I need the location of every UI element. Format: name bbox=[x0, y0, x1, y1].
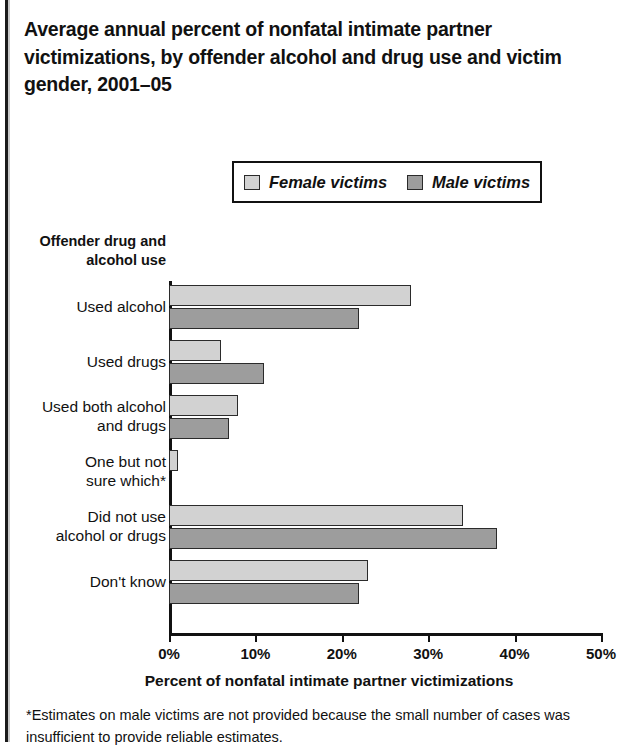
page-title: Average annual percent of nonfatal intim… bbox=[24, 16, 584, 99]
bar-female bbox=[169, 285, 411, 306]
category-label: Used drugs bbox=[6, 352, 166, 371]
legend-label-male: Male victims bbox=[432, 173, 530, 192]
x-axis-line bbox=[169, 633, 603, 636]
x-tick-mark bbox=[428, 633, 430, 642]
legend-item-female: Female victims bbox=[244, 173, 387, 192]
x-tick-mark bbox=[601, 633, 603, 642]
bar-male bbox=[169, 528, 497, 549]
bar-male bbox=[169, 308, 359, 329]
bar-female bbox=[169, 340, 221, 361]
bar-male bbox=[169, 418, 229, 439]
x-tick-mark bbox=[342, 633, 344, 642]
x-tick-mark bbox=[515, 633, 517, 642]
bar-female bbox=[169, 560, 368, 581]
bar-male bbox=[169, 583, 359, 604]
x-tick-label: 30% bbox=[413, 645, 443, 662]
x-tick-mark bbox=[169, 633, 171, 642]
chart-legend: Female victims Male victims bbox=[232, 161, 542, 203]
footnote: *Estimates on male victims are not provi… bbox=[26, 705, 606, 749]
bar-female bbox=[169, 505, 463, 526]
x-tick-label: 50% bbox=[586, 645, 616, 662]
category-label: Did not usealcohol or drugs bbox=[6, 507, 166, 545]
category-label: One but notsure which* bbox=[6, 452, 166, 490]
category-label: Used both alcoholand drugs bbox=[6, 397, 166, 435]
bar-female bbox=[169, 450, 178, 471]
legend-label-female: Female victims bbox=[269, 173, 387, 192]
bar-male bbox=[169, 363, 264, 384]
x-tick-mark bbox=[255, 633, 257, 642]
x-tick-label: 10% bbox=[240, 645, 270, 662]
legend-item-male: Male victims bbox=[407, 173, 530, 192]
legend-swatch-female-icon bbox=[244, 175, 260, 190]
x-axis-title: Percent of nonfatal intimate partner vic… bbox=[0, 672, 636, 690]
category-label: Used alcohol bbox=[6, 297, 166, 316]
y-axis-header: Offender drug and alcohol use bbox=[6, 232, 166, 269]
x-tick-label: 0% bbox=[158, 645, 180, 662]
x-tick-label: 20% bbox=[327, 645, 357, 662]
bar-female bbox=[169, 395, 238, 416]
x-tick-label: 40% bbox=[500, 645, 530, 662]
category-label: Don't know bbox=[6, 572, 166, 591]
legend-swatch-male-icon bbox=[407, 175, 423, 190]
